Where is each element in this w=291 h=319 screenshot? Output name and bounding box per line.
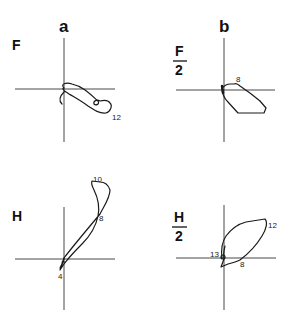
panel-H-a: H 10 8 4 [12,175,115,310]
loop-trace [60,181,110,270]
row-label-F: F [12,37,21,53]
loop-trace [222,84,266,113]
row-label-H: H [12,208,22,224]
panel-F2-b: F 2 8 [173,38,275,142]
point-label: 12 [268,221,277,230]
point-label: 8 [99,214,104,223]
loop-trace [60,83,111,113]
vectorcardiogram-figure: a b F 12 F 2 8 H 10 8 4 H 2 [0,0,291,319]
panel-F-a: F 12 [12,37,121,142]
column-label-a: a [59,17,69,36]
row-label-numerator: F [175,43,184,59]
column-label-b: b [219,17,229,36]
point-label: 4 [58,272,63,281]
loop-origin-cluster [222,86,223,93]
row-label-denominator: 2 [175,228,183,244]
point-label: 8 [236,75,241,84]
point-label: 12 [112,113,121,122]
point-label: 8 [240,260,245,269]
row-label-denominator: 2 [175,62,183,78]
point-label: 10 [93,175,102,184]
row-label-numerator: H [174,209,184,225]
point-label: 13 [210,250,219,259]
panel-H2-b: H 2 12 13 8 [172,205,277,310]
